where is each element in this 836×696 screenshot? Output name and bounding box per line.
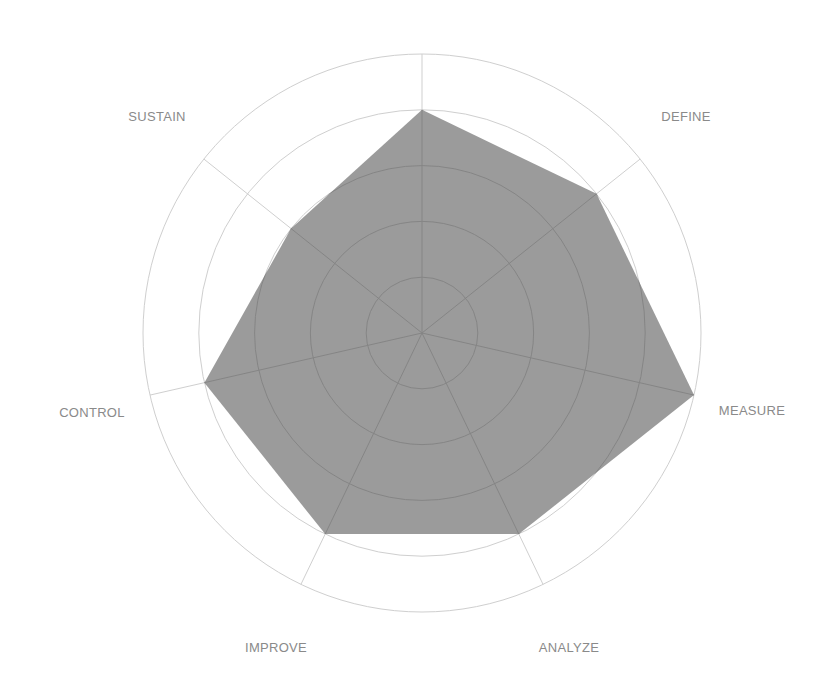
axis-label-measure: MEASURE xyxy=(719,403,785,418)
axis-label-improve: IMPROVE xyxy=(245,640,307,655)
radar-chart: DEFINEMEASUREANALYZEIMPROVECONTROLSUSTAI… xyxy=(0,0,836,696)
axis-label-sustain: SUSTAIN xyxy=(128,109,185,124)
axis-label-analyze: ANALYZE xyxy=(539,640,599,655)
axis-label-define: DEFINE xyxy=(661,109,710,124)
data-area xyxy=(204,110,694,534)
axis-label-control: CONTROL xyxy=(59,405,125,420)
